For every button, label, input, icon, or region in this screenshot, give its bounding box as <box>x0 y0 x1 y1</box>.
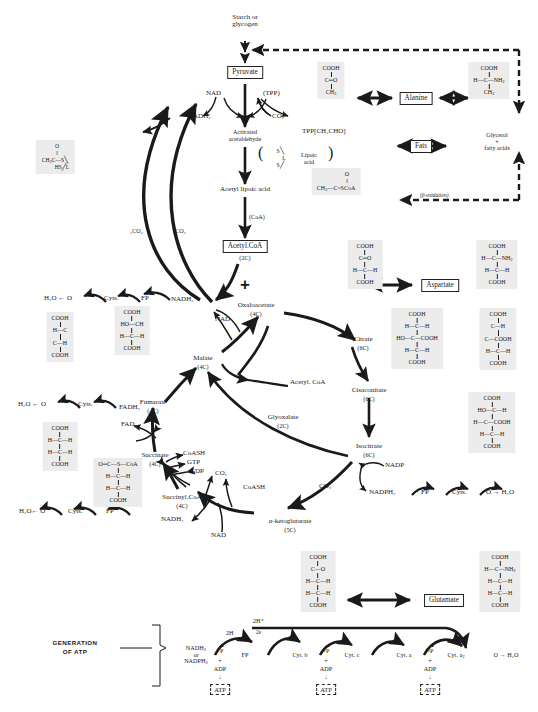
chain-malate-cyts: Cyts. <box>104 295 119 302</box>
node-glycerol-fatty-acids: Glycerol+fatty acids <box>484 132 510 152</box>
label-tpp: (TPP) <box>263 90 280 97</box>
node-alanine[interactable]: Alanine <box>400 92 433 105</box>
label-beta-oxidation: (β-oxidation) <box>420 193 448 199</box>
label-acetyl-coa-carbons: (2C) <box>239 255 250 262</box>
atp-carrier-cyt-c: Cyt. c <box>345 652 360 659</box>
node-acetyl-lipoic-acid: Acetyl lipoic acid <box>220 186 270 193</box>
label-co2-left-b: ₂CO₂ <box>173 228 186 235</box>
label-coash-2: CoASH <box>243 484 265 491</box>
label-tpp-ch3cho: TPP[CH₃CHO] <box>302 128 346 135</box>
structure-malate: COOH HO—CH H—C—H COOH <box>115 306 150 355</box>
structure-fumarate: COOH H—C C—H COOH <box>46 312 73 362</box>
coupling-3-arrow: ↓ <box>428 674 431 681</box>
chain-isocitrate-o: O → H₂O <box>486 489 514 496</box>
label-succinate-carbons: (4C) <box>149 461 160 468</box>
atp-carrier-fp: FP <box>242 652 249 659</box>
label-coash-1: CoASH <box>183 450 205 457</box>
atp-carrier-cyt-b: Cyt. b <box>292 652 307 659</box>
label-fadh2: FADH₂ <box>119 404 140 411</box>
label-alpha-kg-carbons: (5C) <box>284 527 295 534</box>
structure-oxaloacetate: COOH C═O H—C—H COOH <box>348 240 383 289</box>
label-isocitrate-carbons: (6C) <box>363 452 374 459</box>
coupling-2-atp[interactable]: ATP <box>316 684 336 695</box>
coupling-3-p: ~P <box>427 648 434 655</box>
structure-aspartate: COOH H—C—NH2 H—C—H COOH <box>476 240 517 289</box>
atp-label-2h-plus: 2H⁺ <box>253 618 264 625</box>
label-nadh2-succinyl: NADH₂ <box>161 516 184 523</box>
node-cisaconitate[interactable]: Cisaconitate <box>352 387 387 394</box>
lipoic-bracket-right: ) <box>328 145 333 162</box>
label-fumarate-carbons: (4C) <box>147 408 158 415</box>
label-co2-succinyl: CO₂ <box>215 470 227 477</box>
atp-carrier-cyt-a: Cyt. a <box>397 652 412 659</box>
label-co2-akg: CO₂ <box>319 483 331 490</box>
node-fumarate[interactable]: Fumarate <box>140 399 166 406</box>
node-malate[interactable]: Malate <box>193 355 212 362</box>
node-starch-glycogen: Starch orglycogen <box>232 14 258 29</box>
node-citrate[interactable]: Citrate <box>353 336 372 343</box>
node-fats[interactable]: Fats <box>410 140 432 153</box>
atp-label-2h: 2H <box>226 630 234 637</box>
coupling-1-arrow: ↓ <box>218 674 221 681</box>
node-activated-acetaldehyde: Activatedacetaldehyde <box>229 129 261 142</box>
coupling-2-arrow: ↓ <box>324 674 327 681</box>
structure-alpha-ketoglutarate: COOH C—O H—C—H H—C—H COOH <box>301 551 336 612</box>
chain-isocitrate-fp: FP <box>421 489 429 496</box>
label-oxaloacetate-carbons: (4C) <box>250 311 261 318</box>
structure-isocitrate: COOH HO—C—H H—C—COOH H—C—H COOH <box>468 392 515 453</box>
node-glutamate[interactable]: Glutamate <box>424 594 464 607</box>
label-nadp: NADP <box>385 462 404 469</box>
chain-fumarate-cyts: Cyts. <box>78 401 93 408</box>
structure-cisaconitate: COOH C—H C—COOH H—C—H COOH <box>479 308 516 370</box>
structure-glutamate: COOH H—C—NH2 H—C—H H—C—H COOH <box>479 551 520 612</box>
coupling-1-atp[interactable]: ATP <box>210 684 230 695</box>
label-gdp: GDP <box>190 468 204 475</box>
coupling-3-adp: ADP <box>424 666 436 673</box>
atp-label-2e: 2e <box>256 630 261 636</box>
structure-acetyl-coa: O ‖ CH3—C~SCoA <box>312 168 361 195</box>
label-fad: FAD <box>121 421 134 428</box>
label-nad-succinyl: NAD <box>211 532 226 539</box>
coupling-2-adp: ADP <box>320 666 332 673</box>
structure-succinyl-coa: O═C—S—CoA H—C—H H—C—H COOH <box>93 458 142 507</box>
coupling-1-p: ~P <box>217 648 224 655</box>
coupling-2-p: ~P <box>323 648 330 655</box>
node-acetyl-coa[interactable]: Acetyl.CoA <box>223 240 268 253</box>
node-succinate[interactable]: Succinate <box>141 452 168 459</box>
structure-citrate: COOH H—C—H HO—C—COOH H—C—H COOH <box>391 308 443 369</box>
node-succinyl-coa[interactable]: Succinyl.CoA <box>162 494 201 501</box>
label-succinyl-coa-carbons: (4C) <box>176 503 187 510</box>
chain-malate-h2o: H₂O ← O <box>44 295 72 302</box>
label-glyoxalate-carbons: (2C) <box>277 423 288 430</box>
label-co2-pyruvate: CO₂ <box>272 113 284 120</box>
node-aspartate[interactable]: Aspartate <box>421 279 459 292</box>
structure-pyruvate: COOH C═O CH3 <box>317 62 344 99</box>
coupling-3-plus: + <box>428 658 432 665</box>
label-nadh2-malate: NADH₂ <box>171 296 194 303</box>
coupling-2-plus: + <box>324 658 328 665</box>
label-gtp: GTP <box>187 459 200 466</box>
chain-succinate-fp: FP <box>106 508 114 515</box>
label-nadph2: NADPH₂ <box>369 489 396 496</box>
node-oxaloacetate[interactable]: Oxaloacetate <box>238 302 275 309</box>
lipoic-bracket-left: ( <box>258 145 263 162</box>
label-malate-carbons: (4C) <box>197 364 208 371</box>
label-coa-step: (CoA) <box>249 214 265 221</box>
coupling-1-adp: ADP <box>214 666 226 673</box>
label-acetyl-coa-side: Acetyl. CoA <box>290 379 325 386</box>
label-nad-malate: NAD <box>215 316 230 323</box>
label-nadh2-pyruvate: NADH₂ <box>188 113 211 120</box>
label-co2-left-a: ₂CO₂ <box>130 228 143 235</box>
label-citrate-carbons: (6C) <box>357 345 368 352</box>
label-lipoic-acid: Lipoicacid <box>301 152 317 165</box>
node-pyruvate[interactable]: Pyruvate <box>227 66 263 79</box>
coupling-3-atp[interactable]: ATP <box>420 684 440 695</box>
structure-activated-acetaldehyde: O ‖ CH3C—S╲ HS╱L <box>36 140 75 174</box>
node-alpha-ketoglutarate[interactable]: α-ketoglutarate <box>269 518 312 525</box>
node-isocitrate[interactable]: Isocitrate <box>356 443 382 450</box>
structure-succinate: COOH H—C—H H—C—H COOH <box>43 422 78 471</box>
chain-malate-fp: FP <box>141 295 149 302</box>
structure-lipoic-ring: S╲ L S╱ <box>274 148 285 169</box>
label-glyoxalate: Glyoxalate <box>268 414 299 421</box>
chain-succinate-h2o: H₂O← O <box>19 508 45 515</box>
